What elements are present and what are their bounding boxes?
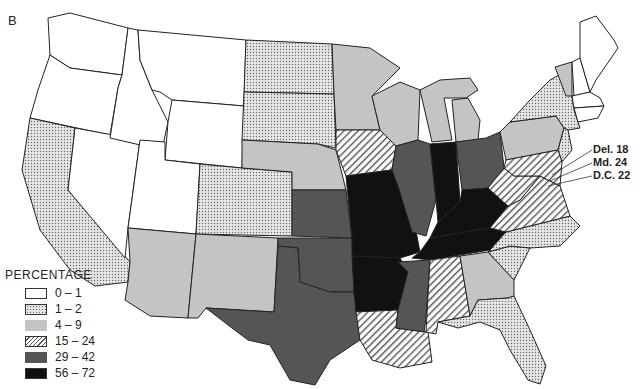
legend-label: 15 – 24 xyxy=(55,334,95,348)
legend-label: 0 – 1 xyxy=(55,286,82,300)
legend-item: 1 – 2 xyxy=(5,301,95,317)
state-ks xyxy=(292,190,352,238)
state-co xyxy=(196,164,292,236)
legend-title: PERCENTAGE xyxy=(5,268,95,282)
legend-swatch-light-gray xyxy=(25,320,47,331)
legend-swatch-black xyxy=(25,368,47,379)
legend: PERCENTAGE 0 – 1 1 – 2 4 – 9 15 – 24 29 … xyxy=(5,268,95,381)
legend-label: 4 – 9 xyxy=(55,318,82,332)
state-ct-ri xyxy=(574,106,604,122)
state-az xyxy=(125,228,196,318)
legend-swatch-dots xyxy=(25,304,47,315)
panel-label: B xyxy=(8,13,17,28)
state-wy xyxy=(165,100,244,168)
legend-item: 4 – 9 xyxy=(5,317,95,333)
state-sd xyxy=(242,92,336,148)
legend-swatch-white xyxy=(25,288,47,299)
annotation-delaware: Del. 18 xyxy=(593,143,628,155)
legend-item: 15 – 24 xyxy=(5,333,95,349)
legend-swatch-dark-gray xyxy=(25,352,47,363)
legend-item: 0 – 1 xyxy=(5,285,95,301)
legend-item: 56 – 72 xyxy=(5,365,95,381)
legend-swatch-hatched xyxy=(25,336,47,347)
annotation-maryland: Md. 24 xyxy=(593,156,627,168)
legend-label: 56 – 72 xyxy=(55,366,95,380)
state-mi xyxy=(420,78,480,142)
state-nm xyxy=(188,234,278,318)
legend-label: 29 – 42 xyxy=(55,350,95,364)
legend-label: 1 – 2 xyxy=(55,302,82,316)
legend-item: 29 – 42 xyxy=(5,349,95,365)
annotation-dc: D.C. 22 xyxy=(593,169,630,181)
state-nd xyxy=(244,40,334,94)
us-choropleth-map xyxy=(0,0,644,389)
